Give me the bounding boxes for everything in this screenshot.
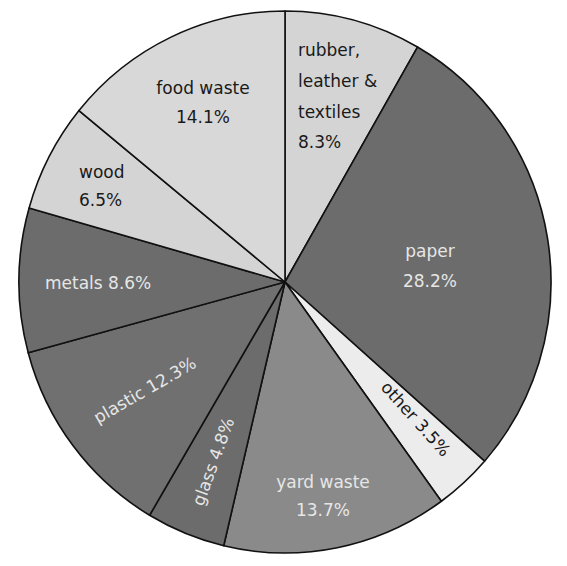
label-yard-name: yard waste <box>276 472 370 492</box>
label-rubber-line1: rubber, <box>298 40 360 60</box>
label-wood-name: wood <box>79 162 125 182</box>
pie-chart: rubber, leather & textiles 8.3% paper 28… <box>0 0 567 566</box>
label-food-value: 14.1% <box>176 107 230 127</box>
label-paper-name: paper <box>405 241 454 261</box>
label-paper-value: 28.2% <box>403 271 457 291</box>
label-rubber-line2: leather & <box>298 71 377 91</box>
label-rubber-value: 8.3% <box>298 132 341 152</box>
label-food-name: food waste <box>156 78 249 98</box>
label-metals: metals 8.6% <box>45 273 151 293</box>
label-yard-value: 13.7% <box>296 500 350 520</box>
label-rubber-line3: textiles <box>298 102 360 122</box>
label-wood-value: 6.5% <box>79 190 122 210</box>
